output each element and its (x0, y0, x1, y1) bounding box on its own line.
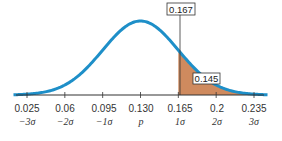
sigma-label: −3σ (19, 116, 37, 127)
sigma-label: 3σ (248, 116, 260, 127)
tick-label: 0.095 (91, 103, 116, 114)
tick-label: 0.06 (55, 103, 75, 114)
annotation-box-top: 0.167 (167, 3, 195, 15)
sigma-label: 1σ (175, 116, 186, 127)
annotation-top-label: 0.167 (169, 4, 193, 15)
tick-label: 0.130 (128, 103, 153, 114)
tick-label: 0.025 (14, 103, 39, 114)
normal-curve-chart: 0.167 0.145 0.025 0.06 0.095 0.130 0.165… (0, 0, 282, 141)
sigma-label: 2σ (212, 116, 223, 127)
tick-label: 0.165 (167, 103, 192, 114)
sigma-label: −2σ (57, 116, 75, 127)
tick-label: 0.235 (241, 103, 266, 114)
sigma-label: −1σ (96, 116, 114, 127)
sigma-label: p (138, 116, 144, 127)
annotation-tail-label: 0.145 (195, 73, 219, 84)
annotation-box-tail: 0.145 (193, 73, 220, 84)
tick-label: 0.2 (210, 103, 224, 114)
normal-curve (13, 21, 267, 95)
